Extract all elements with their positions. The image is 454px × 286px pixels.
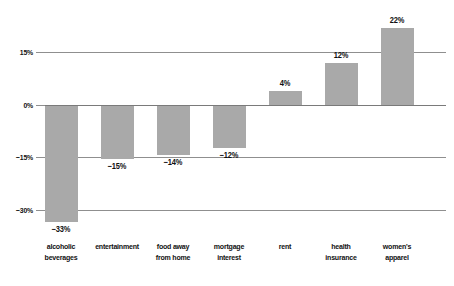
category-label-alcoholic-beverages: alcoholic beverages (31, 241, 91, 263)
bar-rent (269, 91, 302, 105)
value-label-rent: 4% (259, 78, 312, 88)
category-label-health-insurance: health insurance (311, 241, 371, 263)
category-label-food-away-from-home: food away from home (143, 241, 203, 263)
bar-chart: 15% 0% −15% −30% −33% −15% −14% −12% 4% … (0, 0, 454, 286)
category-label-womens-apparel: women's apparel (367, 241, 427, 263)
bar-health-insurance (325, 63, 358, 105)
bar-mortgage-interest (213, 106, 246, 148)
bar-entertainment (101, 106, 134, 159)
value-label-alcoholic-beverages: −33% (35, 224, 88, 234)
value-label-health-insurance: 12% (315, 50, 368, 60)
category-label-rent: rent (255, 241, 315, 252)
value-label-food-away-from-home: −14% (147, 157, 200, 167)
category-label-entertainment: entertainment (87, 241, 147, 252)
value-label-mortgage-interest: −12% (203, 150, 256, 160)
value-label-womens-apparel: 22% (371, 15, 424, 25)
bar-womens-apparel (381, 28, 414, 105)
bar-alcoholic-beverages (45, 106, 78, 222)
bar-food-away-from-home (157, 106, 190, 155)
category-label-mortgage-interest: mortgage interest (199, 241, 259, 263)
value-label-entertainment: −15% (91, 161, 144, 171)
